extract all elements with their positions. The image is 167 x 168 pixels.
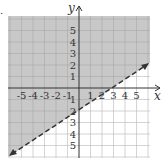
y-axis-label: y bbox=[67, 1, 75, 15]
svg-text:5: 5 bbox=[70, 140, 76, 151]
svg-text:-5: -5 bbox=[17, 90, 27, 101]
svg-text:5: 5 bbox=[133, 90, 139, 101]
coordinate-plane: . x y -5 -4 -3 -2 -1 1 2 3 4 5 bbox=[0, 0, 167, 168]
svg-text:4: 4 bbox=[122, 90, 128, 101]
svg-text:4: 4 bbox=[70, 129, 76, 140]
svg-text:1: 1 bbox=[70, 94, 76, 105]
svg-text:3: 3 bbox=[70, 117, 76, 128]
svg-text:4: 4 bbox=[70, 37, 76, 48]
svg-text:-3: -3 bbox=[40, 90, 50, 101]
svg-text:3: 3 bbox=[110, 90, 116, 101]
svg-text:3: 3 bbox=[70, 48, 76, 59]
svg-text:-4: -4 bbox=[28, 90, 38, 101]
svg-text:1: 1 bbox=[87, 90, 93, 101]
svg-text:-2: -2 bbox=[51, 90, 61, 101]
svg-text:1: 1 bbox=[70, 71, 76, 82]
x-axis-label: x bbox=[154, 89, 161, 103]
problem-marker: . bbox=[0, 5, 3, 16]
svg-text:2: 2 bbox=[70, 60, 76, 71]
svg-text:5: 5 bbox=[70, 25, 76, 36]
svg-text:2: 2 bbox=[70, 106, 76, 117]
